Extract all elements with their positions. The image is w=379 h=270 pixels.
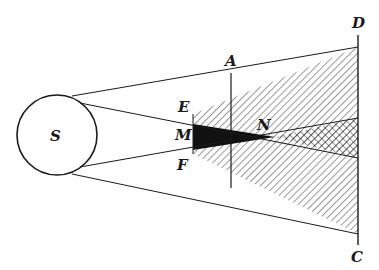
label-d: D	[351, 14, 365, 32]
label-m: M	[174, 126, 192, 144]
optics-diagram: S E M F A D C N	[0, 0, 379, 270]
label-c: C	[351, 248, 363, 266]
label-a: A	[223, 52, 237, 70]
label-e: E	[177, 98, 190, 116]
label-n: N	[256, 116, 272, 134]
label-f: F	[176, 156, 189, 174]
label-s: S	[50, 127, 61, 145]
